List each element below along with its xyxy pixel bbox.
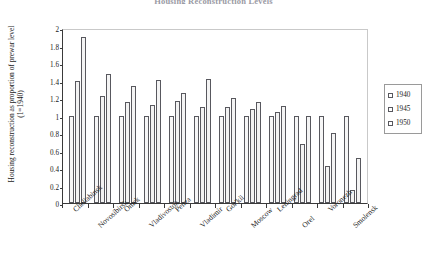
y-axis-tick-label: 1.8 xyxy=(50,44,59,52)
bar xyxy=(250,109,255,203)
y-axis-tick-label: 1.2 xyxy=(50,96,59,104)
y-axis-tick-label: 0.4 xyxy=(50,166,59,174)
bar-group xyxy=(115,30,140,203)
bar xyxy=(119,116,124,204)
bar-group xyxy=(290,30,315,203)
bar-group xyxy=(265,30,290,203)
y-axis-tick-label: 0.6 xyxy=(50,149,59,157)
bar xyxy=(156,80,161,203)
chart-title: Housing Reconstruction Levels xyxy=(0,0,427,4)
bar xyxy=(175,101,180,203)
bar-group xyxy=(240,30,265,203)
bar xyxy=(225,107,230,203)
bar xyxy=(325,166,330,203)
legend-item: 1945 xyxy=(388,102,419,116)
legend-item: 1940 xyxy=(388,88,419,102)
y-axis-tick-label: 1.6 xyxy=(50,61,59,69)
legend-swatch-icon xyxy=(388,93,393,98)
bar xyxy=(106,74,111,204)
bar xyxy=(356,158,361,204)
bar xyxy=(306,116,311,204)
bar-group xyxy=(190,30,215,203)
x-axis-tick-label: Moscow xyxy=(249,205,274,229)
bar xyxy=(125,102,130,203)
bar-chart: Housing Reconstruction Levels Housing re… xyxy=(0,0,427,268)
bar-group xyxy=(65,30,90,203)
plot-area: 21.81.61.41.210.80.60.40.20 xyxy=(62,29,368,204)
bar-group xyxy=(340,30,365,203)
y-axis-tick-label: 1.4 xyxy=(50,79,59,87)
bar xyxy=(181,93,186,203)
bar xyxy=(275,112,280,203)
bar-series-container xyxy=(63,30,367,203)
bar xyxy=(231,98,236,203)
y-axis-tick-label: 0.8 xyxy=(50,131,59,139)
bar xyxy=(75,81,80,204)
y-axis-tick-label: 2 xyxy=(55,26,59,34)
bar xyxy=(194,116,199,204)
bar-group xyxy=(315,30,340,203)
y-axis-title-container: Housing reconstruction as proportion of … xyxy=(5,9,27,199)
bar xyxy=(281,106,286,203)
bar xyxy=(206,79,211,203)
y-axis-tick-label: 1 xyxy=(55,114,59,122)
legend-item-label: 1950 xyxy=(396,119,410,127)
y-axis-title: Housing reconstruction as proportion of … xyxy=(7,11,26,197)
x-axis-labels: CheliabinskNovosibirskOmskVladivostokPen… xyxy=(0,205,427,268)
legend-item: 1950 xyxy=(388,116,419,130)
bar xyxy=(331,133,336,203)
bar xyxy=(150,105,155,203)
legend-swatch-icon xyxy=(388,121,393,126)
x-axis-tick-label: Vladimir xyxy=(198,205,224,230)
legend-swatch-icon xyxy=(388,107,393,112)
bar xyxy=(69,116,74,204)
x-axis-tick-label: Smolensk xyxy=(351,203,379,230)
bar xyxy=(256,102,261,203)
bar-group xyxy=(215,30,240,203)
bar xyxy=(319,116,324,204)
y-axis-tick-label: 0.2 xyxy=(50,184,59,192)
bar-group xyxy=(165,30,190,203)
bar xyxy=(244,116,249,204)
bar xyxy=(219,116,224,204)
bar-group xyxy=(140,30,165,203)
bar xyxy=(200,107,205,203)
bar xyxy=(81,37,86,203)
bar xyxy=(144,116,149,204)
bar xyxy=(131,86,136,203)
legend-item-label: 1940 xyxy=(396,91,410,99)
legend-item-label: 1945 xyxy=(396,105,410,113)
bar-group xyxy=(90,30,115,203)
bar xyxy=(269,116,274,204)
x-axis-tick-label: Orel xyxy=(300,214,316,230)
legend: 1940 1945 1950 xyxy=(384,84,422,134)
bar xyxy=(169,116,174,204)
